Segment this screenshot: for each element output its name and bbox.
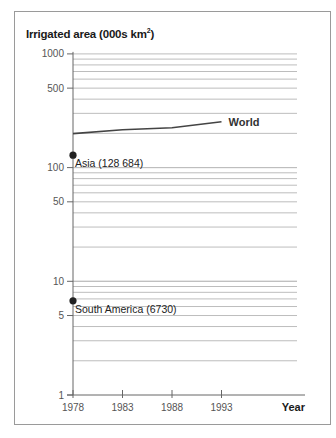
y-tick-label: 1 bbox=[58, 390, 64, 401]
x-tick-label: 1978 bbox=[62, 402, 85, 413]
point-label: Asia (128 684) bbox=[75, 157, 143, 169]
y-tick-label: 1000 bbox=[42, 48, 65, 59]
y-tick-label: 50 bbox=[53, 196, 65, 207]
y-tick-label: 10 bbox=[53, 276, 65, 287]
world-label: World bbox=[229, 116, 260, 128]
world-line bbox=[73, 122, 222, 134]
x-tick-label: 1988 bbox=[161, 402, 184, 413]
chart-plot: 10005001005010511978198319881993YearWorl… bbox=[0, 0, 336, 438]
x-tick-label: 1993 bbox=[210, 402, 233, 413]
y-tick-label: 500 bbox=[47, 83, 64, 94]
y-tick-label: 5 bbox=[58, 310, 64, 321]
y-tick-label: 100 bbox=[47, 162, 64, 173]
point-label: South America (6730) bbox=[75, 303, 177, 315]
x-tick-label: 1983 bbox=[111, 402, 134, 413]
x-axis-label: Year bbox=[282, 401, 306, 413]
